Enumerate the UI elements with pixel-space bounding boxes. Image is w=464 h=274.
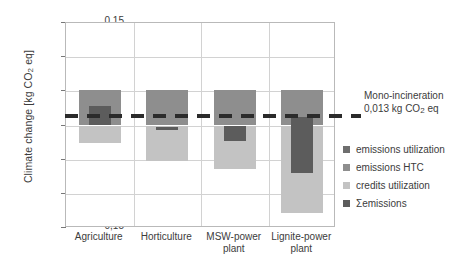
mono-incineration-value-prefix: 0,013 kg CO: [364, 103, 420, 114]
x-category-label: Lignite-powerplant: [268, 231, 336, 254]
y-axis-title-subscript: 2: [26, 68, 35, 73]
category-separator: [134, 23, 135, 226]
chart-legend: emissions utilizationemissions HTCcredit…: [343, 140, 445, 212]
legend-swatch-icon: [343, 200, 350, 207]
legend-swatch-icon: [343, 182, 350, 189]
legend-item-label: credits utilization: [356, 180, 430, 191]
mono-incineration-reference-line: [65, 114, 361, 118]
x-category-label: Horticulture: [133, 231, 201, 243]
y-tick-mark: [61, 227, 66, 228]
legend-swatch-icon: [343, 164, 350, 171]
y-axis-title: Climate change [kg CO2 eq]: [22, 17, 35, 217]
bar-segment: [146, 90, 188, 126]
bar-segment: [156, 127, 178, 130]
legend-item-label: Σemissions: [356, 198, 407, 209]
bar-segment: [146, 126, 188, 162]
x-category-label-line: plant: [200, 243, 268, 255]
mono-incineration-label-line2: 0,013 kg CO2 eq: [364, 103, 444, 118]
legend-swatch-icon: [343, 146, 350, 153]
legend-item[interactable]: Σemissions: [343, 194, 445, 212]
bar-segment: [214, 90, 256, 126]
plot-area: [65, 22, 335, 227]
legend-item[interactable]: emissions utilization: [343, 140, 445, 158]
x-category-label-line: plant: [268, 243, 336, 255]
y-axis-title-suffix: eq]: [22, 50, 34, 68]
category-separator: [269, 23, 270, 226]
legend-item-label: emissions utilization: [356, 144, 445, 155]
category-separator: [201, 23, 202, 226]
legend-item-label: emissions HTC: [356, 162, 424, 173]
climate-change-bar-chart: Climate change [kg CO2 eq] 0,150,100,050…: [0, 0, 464, 274]
x-category-label: MSW-powerplant: [200, 231, 268, 254]
y-axis-title-prefix: Climate change [kg CO: [22, 72, 34, 183]
x-category-label-line: Lignite-power: [268, 231, 336, 243]
bar-segment: [291, 117, 313, 173]
bar-segment: [224, 126, 246, 141]
x-category-label: Agriculture: [65, 231, 133, 243]
x-category-label-line: Agriculture: [65, 231, 133, 243]
legend-item[interactable]: credits utilization: [343, 176, 445, 194]
mono-incineration-value-suffix: eq: [425, 103, 439, 114]
bar-segment: [79, 126, 121, 143]
mono-incineration-label-line1: Mono-incineration: [364, 90, 444, 103]
legend-item[interactable]: emissions HTC: [343, 158, 445, 176]
x-category-label-line: Horticulture: [133, 231, 201, 243]
gridline: [66, 57, 334, 58]
mono-incineration-label: Mono-incineration 0,013 kg CO2 eq: [364, 90, 444, 117]
x-category-label-line: MSW-power: [200, 231, 268, 243]
